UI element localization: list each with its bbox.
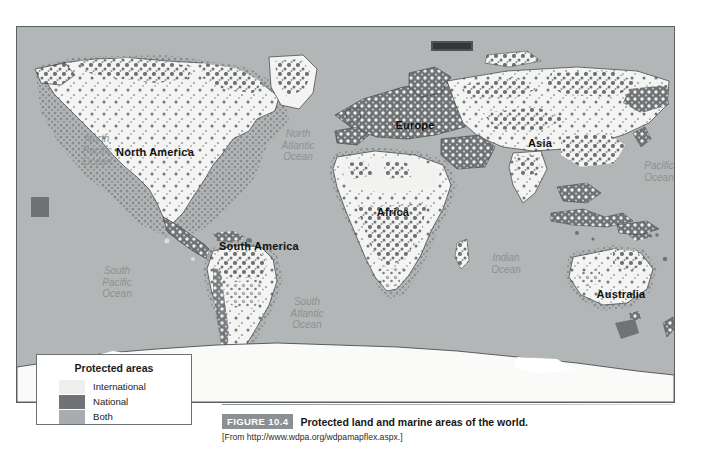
legend-item-international: International — [59, 379, 191, 394]
figure-protected-areas: North Pacific Ocean North Atlantic Ocean… — [0, 0, 710, 467]
legend-item-national: National — [59, 394, 191, 409]
map-legend: Protected areas International National B… — [36, 354, 192, 425]
legend-label-international: International — [93, 380, 146, 394]
legend-title: Protected areas — [37, 362, 191, 374]
legend-swatch-national — [59, 395, 85, 409]
figure-source-text: [From http://www.wdpa.org/wdpamapflex.as… — [222, 432, 403, 442]
legend-label-national: National — [93, 395, 128, 409]
world-map: North Pacific Ocean North Atlantic Ocean… — [16, 26, 675, 403]
legend-label-both: Both — [93, 410, 113, 424]
figure-number-badge: FIGURE 10.4 — [222, 414, 293, 429]
caption-divider — [222, 404, 673, 405]
legend-swatch-international — [59, 380, 85, 394]
legend-swatch-both — [59, 410, 85, 424]
marine-reserve-pacific — [31, 197, 49, 217]
figure-caption-text: Protected land and marine areas of the w… — [300, 416, 528, 428]
figure-caption: FIGURE 10.4 Protected land and marine ar… — [222, 414, 692, 429]
world-map-svg — [17, 27, 674, 402]
legend-item-both: Both — [59, 409, 191, 424]
